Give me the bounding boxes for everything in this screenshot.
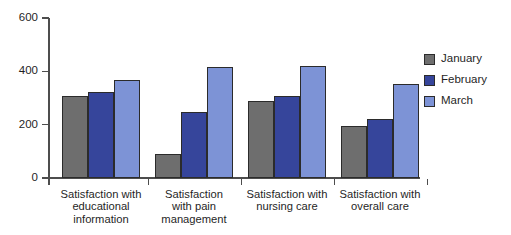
x-axis-category-label-line: Satisfaction with — [55, 188, 147, 200]
bar — [207, 67, 233, 178]
x-axis-category-label-line: educational — [55, 200, 147, 212]
bar-chart: 6004002000 Satisfaction witheducationali… — [0, 0, 511, 235]
legend-item[interactable]: January — [424, 50, 508, 68]
bar — [393, 84, 419, 178]
bar — [300, 66, 326, 178]
legend-item[interactable]: February — [424, 71, 508, 89]
bars-layer — [50, 18, 420, 178]
y-axis-tick-label: 0 — [4, 172, 38, 184]
y-axis-tick — [42, 71, 49, 73]
x-axis-category-label-line: Satisfaction with — [241, 188, 333, 200]
x-axis-category-label-line: with pain — [148, 200, 240, 212]
legend-label: January — [441, 53, 482, 65]
bar — [274, 96, 300, 178]
x-axis-category-label-line: information — [55, 213, 147, 225]
y-axis-tick-label: 400 — [4, 65, 38, 77]
x-axis-category-label-line: Satisfaction — [148, 188, 240, 200]
x-axis-category-label-line: management — [148, 213, 240, 225]
bar — [114, 80, 140, 178]
y-axis-tick-label: 200 — [4, 119, 38, 131]
x-axis-tick — [48, 179, 50, 185]
x-axis-category-label-line: Satisfaction with — [334, 188, 426, 200]
bar — [181, 112, 207, 178]
legend-swatch-icon — [424, 96, 435, 107]
legend: JanuaryFebruaryMarch — [424, 50, 508, 113]
legend-label: March — [441, 95, 473, 107]
bar — [155, 154, 181, 178]
y-axis-tick — [42, 124, 49, 126]
x-axis-category-label: Satisfactionwith painmanagement — [148, 188, 240, 225]
legend-label: February — [441, 74, 487, 86]
bar — [62, 96, 88, 178]
x-axis-category-label: Satisfaction withoverall care — [334, 188, 426, 213]
x-axis-category-label-line: nursing care — [241, 200, 333, 212]
x-axis-tick — [241, 179, 243, 185]
x-axis-tick — [427, 179, 429, 185]
bar — [341, 126, 367, 178]
x-axis-tick — [334, 179, 336, 185]
x-axis-category-label: Satisfaction withnursing care — [241, 188, 333, 213]
legend-swatch-icon — [424, 54, 435, 65]
legend-swatch-icon — [424, 75, 435, 86]
legend-item[interactable]: March — [424, 92, 508, 110]
y-axis-tick-label: 600 — [4, 12, 38, 24]
bar — [367, 119, 393, 178]
x-axis-tick — [148, 179, 150, 185]
y-axis-tick — [42, 17, 49, 19]
bar — [248, 101, 274, 178]
bar — [88, 92, 114, 178]
x-axis-category-label: Satisfaction witheducationalinformation — [55, 188, 147, 225]
x-axis-category-label-line: overall care — [334, 200, 426, 212]
